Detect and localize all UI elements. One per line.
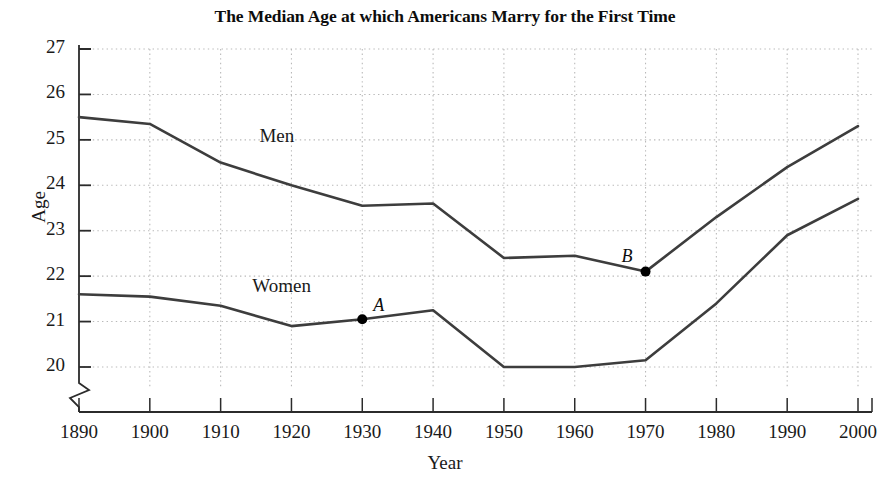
x-tick-label-1960: 1960 bbox=[535, 421, 615, 443]
series-lines bbox=[79, 117, 858, 367]
x-tick-label-1920: 1920 bbox=[251, 421, 331, 443]
chart-plot-area bbox=[0, 0, 890, 482]
x-tick-label-2000: 2000 bbox=[818, 421, 890, 443]
vertical-gridlines bbox=[150, 49, 858, 389]
x-tick-label-1910: 1910 bbox=[181, 421, 261, 443]
series-label-men: Men bbox=[259, 125, 294, 147]
series-line-men bbox=[79, 117, 858, 271]
y-tick-label-21: 21 bbox=[25, 309, 65, 331]
x-axis-label: Year bbox=[0, 452, 890, 474]
x-tick-label-1980: 1980 bbox=[676, 421, 756, 443]
horizontal-gridlines bbox=[79, 49, 872, 367]
x-tick-label-1950: 1950 bbox=[464, 421, 544, 443]
chart-figure: The Median Age at which Americans Marry … bbox=[0, 0, 890, 482]
point-marker-b bbox=[641, 267, 651, 277]
y-tick-label-22: 22 bbox=[25, 263, 65, 285]
series-line-women bbox=[79, 199, 858, 367]
point-label-a: A bbox=[373, 295, 384, 316]
y-tick-label-23: 23 bbox=[25, 218, 65, 240]
x-tick-label-1930: 1930 bbox=[322, 421, 402, 443]
y-axis-line bbox=[70, 45, 89, 412]
y-tick-label-20: 20 bbox=[25, 354, 65, 376]
axis-lines bbox=[70, 45, 872, 412]
x-tick-label-1900: 1900 bbox=[110, 421, 190, 443]
point-marker-a bbox=[357, 314, 367, 324]
y-tick-label-27: 27 bbox=[25, 36, 65, 58]
point-label-b: B bbox=[622, 246, 633, 267]
y-tick-label-24: 24 bbox=[25, 172, 65, 194]
y-tick-label-25: 25 bbox=[25, 127, 65, 149]
x-tick-label-1970: 1970 bbox=[606, 421, 686, 443]
x-tick-label-1990: 1990 bbox=[747, 421, 827, 443]
x-tick-label-1940: 1940 bbox=[393, 421, 473, 443]
series-label-women: Women bbox=[252, 275, 311, 297]
y-tick-label-26: 26 bbox=[25, 81, 65, 103]
x-tick-label-1890: 1890 bbox=[39, 421, 119, 443]
